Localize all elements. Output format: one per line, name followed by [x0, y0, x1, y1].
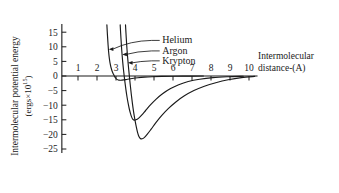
x-axis-tick-label: 9 — [228, 63, 233, 73]
x-axis-tick-label: 5 — [152, 63, 157, 73]
y-axis-tick-label: −25 — [43, 144, 58, 154]
series-label-helium: Helium — [162, 34, 192, 45]
leader-line-argon — [126, 51, 159, 54]
y-axis-tick-label: −5 — [48, 86, 58, 96]
chart-axes — [62, 24, 258, 153]
x-axis-tick-label: 4 — [133, 63, 138, 73]
y-axis-tick-label: −20 — [43, 130, 58, 140]
y-axis-tick-label: 10 — [48, 42, 58, 52]
series-label-krypton: Krypton — [162, 55, 195, 66]
potential-energy-chart-figure: 151050−5−10−15−20−2512345678910 HeliumAr… — [0, 0, 339, 193]
chart-series-labels: HeliumArgonKrypton — [162, 34, 195, 65]
x-axis-tick-label: 3 — [114, 63, 119, 73]
y-axis-tick-label: 5 — [53, 57, 58, 67]
leader-arrowhead-helium — [109, 47, 114, 51]
x-axis-tick-label: 10 — [244, 63, 254, 73]
chart-ticks — [62, 32, 249, 149]
x-axis-tick-label: 1 — [76, 63, 81, 73]
chart-tick-labels: 151050−5−10−15−20−2512345678910 — [43, 28, 254, 155]
y-axis-tick-label: −10 — [43, 101, 58, 111]
chart-plot-area: 151050−5−10−15−20−2512345678910 HeliumAr… — [0, 0, 339, 193]
y-axis-tick-label: 15 — [48, 28, 58, 38]
y-axis-tick-label: 0 — [53, 71, 58, 81]
y-axis-tick-label: −15 — [43, 115, 58, 125]
leader-arrowhead-argon — [122, 52, 127, 56]
x-axis-tick-label: 2 — [95, 63, 100, 73]
x-axis-tick-label: 8 — [209, 63, 214, 73]
chart-annotation-leaders — [109, 40, 160, 64]
leader-line-helium — [113, 40, 160, 49]
